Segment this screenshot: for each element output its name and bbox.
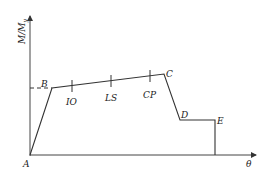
- y-axis-label-main: M/M: [17, 22, 27, 45]
- point-label-b: B: [40, 79, 48, 89]
- point-label-e: E: [216, 116, 224, 126]
- performance-label-io: IO: [65, 97, 78, 107]
- x-axis-label: θ: [246, 159, 252, 169]
- performance-label-cp: CP: [143, 90, 157, 100]
- point-label-c: C: [166, 69, 173, 79]
- point-label-d: D: [180, 110, 188, 120]
- performance-label-ls: LS: [104, 93, 117, 103]
- moment-rotation-diagram: A B C D E IO LS CP M/My θ: [0, 0, 271, 181]
- y-axis-label-subscript: y: [21, 19, 29, 24]
- y-axis-label: M/My: [17, 19, 29, 45]
- point-label-a: A: [22, 159, 30, 169]
